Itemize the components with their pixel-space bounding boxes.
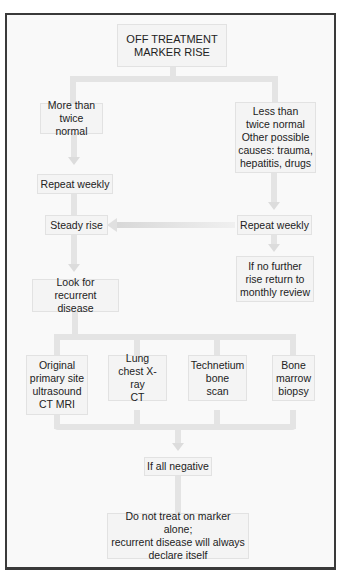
arrow-down-icon — [268, 202, 280, 210]
connector — [71, 193, 77, 215]
if-all-negative-box: If all negative — [144, 457, 212, 476]
less-than-twice-box: Less than twice normal Other possible ca… — [235, 102, 316, 173]
repeat-weekly-left-box: Repeat weekly — [37, 174, 113, 194]
connector — [272, 76, 278, 102]
connector — [271, 172, 277, 202]
arrow-down-icon — [268, 244, 280, 252]
conclusion-box: Do not treat on marker alone; recurrent … — [107, 513, 249, 559]
connector — [71, 234, 77, 264]
investigation-bone-marrow-box: Bone marrow biopsy — [272, 355, 315, 401]
connector — [271, 234, 277, 244]
more-than-twice-box: More than twice normal — [40, 103, 103, 134]
arrow-down-icon — [172, 443, 184, 451]
connector — [117, 222, 235, 228]
investigation-technetium-box: Technetium bone scan — [188, 355, 247, 401]
connector — [54, 334, 60, 355]
arrow-down-icon — [68, 264, 80, 272]
repeat-weekly-right-box: Repeat weekly — [237, 215, 312, 235]
steady-rise-box: Steady rise — [45, 215, 108, 235]
no-further-rise-box: If no further rise return to monthly rev… — [236, 256, 314, 302]
arrow-left-icon — [107, 218, 117, 232]
investigation-primary-site-box: Original primary site ultrasound CT MRI — [26, 355, 88, 415]
title-box: OFF TREATMENT MARKER RISE — [117, 24, 227, 67]
arrow-down-icon — [68, 157, 80, 165]
investigation-lung-box: Lung chest X-ray CT — [108, 355, 167, 401]
connector — [214, 334, 220, 355]
connector — [290, 334, 296, 355]
connector — [54, 334, 296, 340]
connector — [70, 76, 278, 82]
connector — [175, 430, 181, 444]
look-for-recurrent-box: Look for recurrent disease — [32, 279, 119, 312]
connector — [175, 475, 181, 513]
